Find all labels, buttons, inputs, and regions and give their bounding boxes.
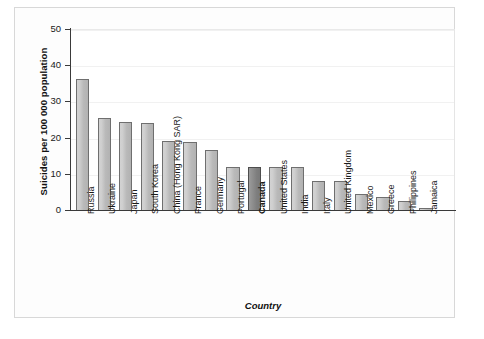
x-tick-label: Philippines — [409, 170, 418, 214]
x-tick-label: United Kingdom — [344, 150, 353, 214]
gridline — [71, 102, 454, 103]
y-tick-label: 10 — [31, 169, 61, 179]
y-tick-label: 50 — [31, 24, 61, 34]
y-tick-label: 30 — [31, 96, 61, 106]
y-tick-mark — [65, 65, 70, 66]
y-tick-mark — [65, 174, 70, 175]
x-tick-label: Canada — [258, 181, 267, 214]
x-tick-label: Germany — [216, 177, 225, 214]
x-tick-label: United States — [280, 160, 289, 214]
y-tick-label: 0 — [31, 205, 61, 215]
gridline — [71, 30, 454, 31]
x-tick-label: Greece — [387, 184, 396, 214]
x-tick-label: Italy — [323, 197, 332, 214]
y-tick-label: 20 — [31, 133, 61, 143]
chart-figure: Suicides per 100 000 population 01020304… — [0, 0, 484, 339]
x-tick-label: Japan — [130, 189, 139, 214]
x-tick-label: China (Hong Kong SAR) — [173, 116, 182, 214]
y-tick-mark — [65, 101, 70, 102]
y-tick-label: 40 — [31, 60, 61, 70]
x-tick-label: Mexico — [366, 185, 375, 214]
figure-frame: Suicides per 100 000 population 01020304… — [14, 7, 455, 318]
x-tick-label: Jamaica — [430, 180, 439, 214]
x-axis-title: Country — [71, 300, 455, 311]
x-tick-label: France — [194, 186, 203, 214]
y-tick-mark — [65, 210, 70, 211]
x-tick-label: Russia — [87, 186, 96, 214]
x-tick-label: Ukraine — [108, 183, 117, 214]
x-tick-label: Portugal — [237, 180, 246, 214]
gridline — [71, 66, 454, 67]
y-tick-mark — [65, 29, 70, 30]
y-tick-mark — [65, 138, 70, 139]
x-tick-label: South Korea — [151, 164, 160, 214]
y-axis-title: Suicides per 100 000 population — [38, 32, 49, 212]
x-tick-label: India — [301, 194, 310, 214]
